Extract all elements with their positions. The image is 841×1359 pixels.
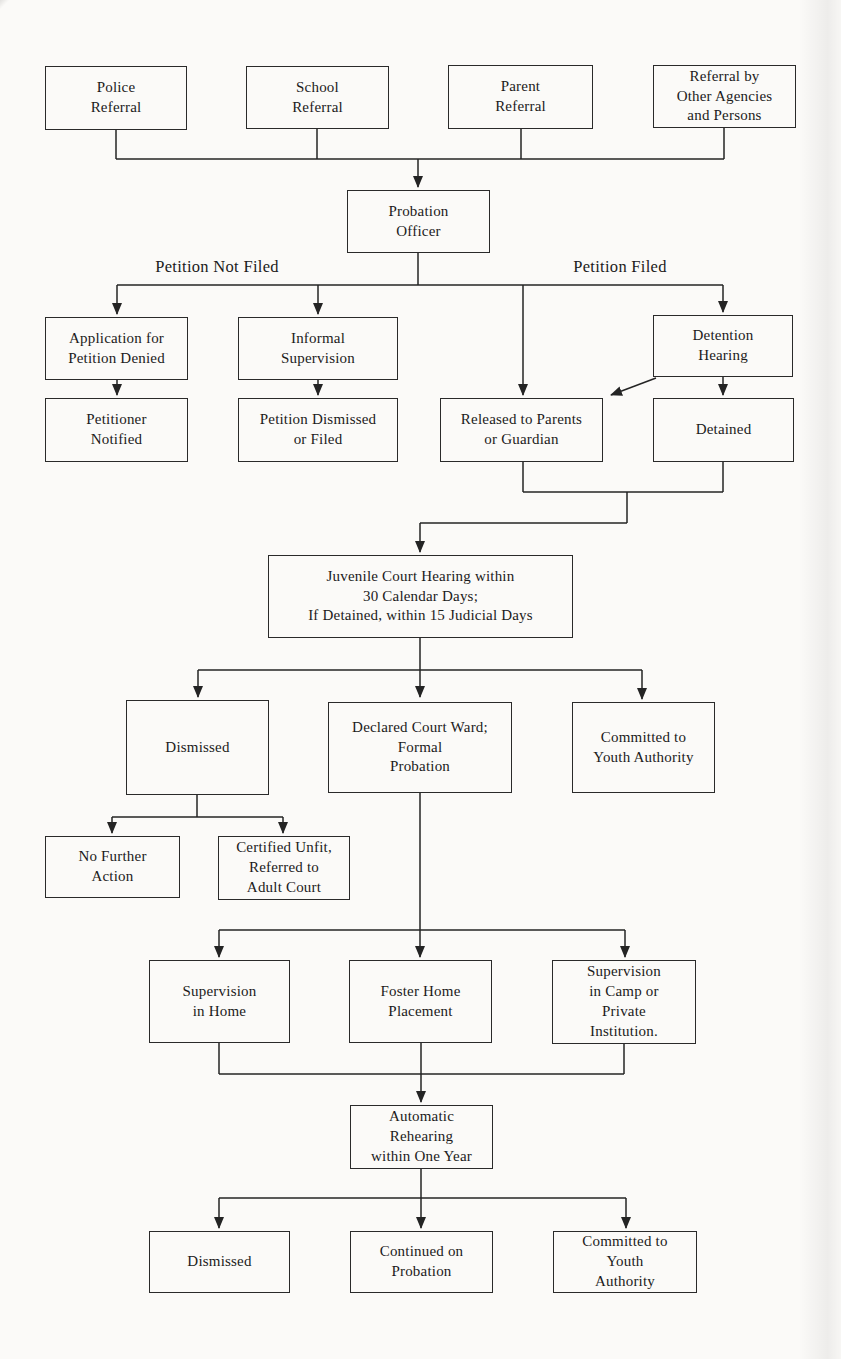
branch-label-petition-not-filed: Petition Not Filed	[97, 257, 337, 277]
node-supervision-camp-private: Supervision in Camp or Private Instituti…	[552, 960, 696, 1044]
node-petitioner-notified: Petitioner Notified	[45, 398, 188, 462]
scanned-flowchart-page: Petition Not Filed Petition Filed Police…	[0, 0, 841, 1359]
node-continued-on-probation: Continued on Probation	[350, 1231, 493, 1293]
node-declared-court-ward: Declared Court Ward; Formal Probation	[328, 702, 512, 793]
node-supervision-in-home: Supervision in Home	[149, 960, 290, 1043]
node-detained: Detained	[653, 398, 794, 462]
node-informal-supervision: Informal Supervision	[238, 317, 398, 380]
node-petition-dismissed-or-filed: Petition Dismissed or Filed	[238, 398, 398, 462]
node-dismissed-court: Dismissed	[126, 700, 269, 795]
node-application-petition-denied: Application for Petition Denied	[45, 317, 188, 380]
node-no-further-action: No Further Action	[45, 836, 180, 898]
node-police-referral: Police Referral	[45, 66, 187, 130]
node-school-referral: School Referral	[246, 66, 389, 129]
node-parent-referral: Parent Referral	[448, 65, 593, 129]
node-referral-other-agencies: Referral by Other Agencies and Persons	[653, 65, 796, 128]
node-automatic-rehearing: Automatic Rehearing within One Year	[350, 1105, 493, 1169]
node-released-to-parents: Released to Parents or Guardian	[440, 398, 603, 462]
node-committed-youth-authority: Committed to Youth Authority	[572, 702, 715, 793]
node-juvenile-court-hearing: Juvenile Court Hearing within 30 Calenda…	[268, 555, 573, 638]
branch-label-petition-filed: Petition Filed	[520, 257, 720, 277]
node-committed-youth-authority-2: Committed to Youth Authority	[553, 1231, 697, 1293]
node-foster-home-placement: Foster Home Placement	[349, 960, 492, 1043]
node-detention-hearing: Detention Hearing	[653, 315, 793, 377]
node-certified-unfit: Certified Unfit, Referred to Adult Court	[218, 836, 350, 900]
node-probation-officer: Probation Officer	[347, 190, 490, 253]
node-dismissed-rehearing: Dismissed	[149, 1231, 290, 1293]
